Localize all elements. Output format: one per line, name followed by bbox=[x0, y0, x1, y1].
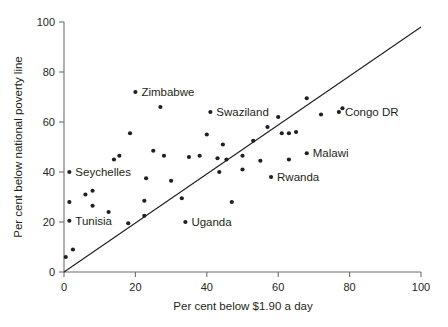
data-point bbox=[287, 131, 291, 135]
data-point bbox=[224, 157, 228, 161]
data-point bbox=[240, 167, 244, 171]
axes-group: 020406080100020406080100 bbox=[37, 16, 431, 293]
data-point bbox=[258, 159, 262, 163]
parity-line bbox=[64, 27, 421, 272]
chart-svg: 020406080100020406080100 TunisiaSeychell… bbox=[0, 0, 448, 327]
data-point-tunisia bbox=[67, 219, 71, 223]
y-tick-label: 40 bbox=[43, 166, 55, 178]
point-label-tunisia: Tunisia bbox=[75, 215, 112, 227]
data-point bbox=[287, 157, 291, 161]
data-point-malawi bbox=[305, 151, 309, 155]
data-point bbox=[128, 131, 132, 135]
data-point bbox=[117, 154, 121, 158]
point-label-swaziland: Swaziland bbox=[216, 106, 268, 118]
data-point bbox=[305, 96, 309, 100]
data-point bbox=[67, 200, 71, 204]
point-label-malawi: Malawi bbox=[313, 147, 349, 159]
data-point bbox=[221, 142, 225, 146]
data-point bbox=[144, 176, 148, 180]
data-point bbox=[112, 157, 116, 161]
data-point bbox=[90, 204, 94, 208]
data-point-swaziland bbox=[208, 110, 212, 114]
data-point bbox=[294, 130, 298, 134]
data-point bbox=[142, 214, 146, 218]
x-tick-label: 20 bbox=[129, 281, 141, 293]
data-point bbox=[187, 155, 191, 159]
data-point bbox=[276, 115, 280, 119]
data-point bbox=[151, 149, 155, 153]
data-point bbox=[90, 189, 94, 193]
y-tick-label: 0 bbox=[49, 266, 55, 278]
x-tick-label: 60 bbox=[272, 281, 284, 293]
data-point-zimbabwe bbox=[133, 90, 137, 94]
point-label-rwanda: Rwanda bbox=[277, 171, 320, 183]
point-label-uganda: Uganda bbox=[191, 216, 232, 228]
parity-line-group bbox=[64, 27, 421, 272]
data-point bbox=[83, 192, 87, 196]
data-point bbox=[240, 154, 244, 158]
data-point bbox=[198, 154, 202, 158]
data-point bbox=[215, 156, 219, 160]
y-tick-label: 20 bbox=[43, 216, 55, 228]
y-axis-title: Per cent below national poverty line bbox=[12, 56, 24, 238]
data-point-rwanda bbox=[269, 175, 273, 179]
data-point bbox=[71, 247, 75, 251]
x-tick-label: 0 bbox=[61, 281, 67, 293]
data-point-uganda bbox=[183, 220, 187, 224]
data-point bbox=[205, 132, 209, 136]
data-point bbox=[319, 112, 323, 116]
data-point bbox=[162, 154, 166, 158]
point-label-seychelles: Seychelles bbox=[75, 166, 131, 178]
point-labels-group: TunisiaSeychellesZimbabweUgandaSwaziland… bbox=[75, 86, 398, 228]
point-label-zimbabwe: Zimbabwe bbox=[141, 86, 194, 98]
y-tick-label: 100 bbox=[37, 16, 55, 28]
data-point bbox=[169, 179, 173, 183]
y-tick-label: 80 bbox=[43, 66, 55, 78]
data-point bbox=[64, 255, 68, 259]
data-point bbox=[230, 200, 234, 204]
x-tick-label: 100 bbox=[412, 281, 430, 293]
data-point bbox=[142, 199, 146, 203]
poverty-scatter-chart: 020406080100020406080100 TunisiaSeychell… bbox=[0, 0, 448, 327]
data-point bbox=[107, 210, 111, 214]
x-tick-label: 40 bbox=[201, 281, 213, 293]
data-point bbox=[280, 131, 284, 135]
x-axis-title: Per cent below $1.90 a day bbox=[173, 300, 313, 312]
data-point bbox=[126, 221, 130, 225]
x-tick-label: 80 bbox=[343, 281, 355, 293]
data-point-seychelles bbox=[67, 170, 71, 174]
y-tick-label: 60 bbox=[43, 116, 55, 128]
point-label-congo-dr: Congo DR bbox=[345, 106, 399, 118]
data-point-congo-dr bbox=[337, 110, 341, 114]
data-point bbox=[217, 170, 221, 174]
data-point bbox=[158, 105, 162, 109]
data-point bbox=[180, 196, 184, 200]
data-point bbox=[251, 139, 255, 143]
data-point bbox=[265, 125, 269, 129]
